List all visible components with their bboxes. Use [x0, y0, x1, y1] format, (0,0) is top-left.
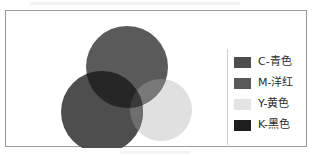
- legend-item-magenta: M-洋红: [234, 73, 293, 93]
- legend-divider: [227, 49, 228, 145]
- legend-item-yellow: Y-黄色: [234, 94, 289, 114]
- legend-label-yellow: Y-黄色: [258, 98, 289, 110]
- legend-label-magenta: M-洋红: [258, 77, 293, 89]
- figure-frame: C-青色 M-洋红 Y-黄色 K-黑色: [5, 10, 307, 147]
- black-swatch: [234, 120, 251, 131]
- scan-artifact-top: [30, 2, 240, 5]
- legend-label-black: K-黑色: [258, 119, 290, 131]
- scan-artifact-bottom: [120, 151, 190, 154]
- cyan-swatch: [234, 57, 251, 68]
- figure-root: C-青色 M-洋红 Y-黄色 K-黑色: [0, 0, 314, 157]
- magenta-swatch: [234, 78, 251, 89]
- venn-diagram-svg: [6, 11, 226, 148]
- legend-item-cyan: C-青色: [234, 52, 292, 72]
- venn-diagram: [6, 11, 226, 148]
- legend-label-cyan: C-青色: [258, 56, 292, 68]
- legend-item-black: K-黑色: [234, 115, 290, 135]
- legend: C-青色 M-洋红 Y-黄色 K-黑色: [227, 49, 307, 145]
- yellow-swatch: [234, 99, 251, 110]
